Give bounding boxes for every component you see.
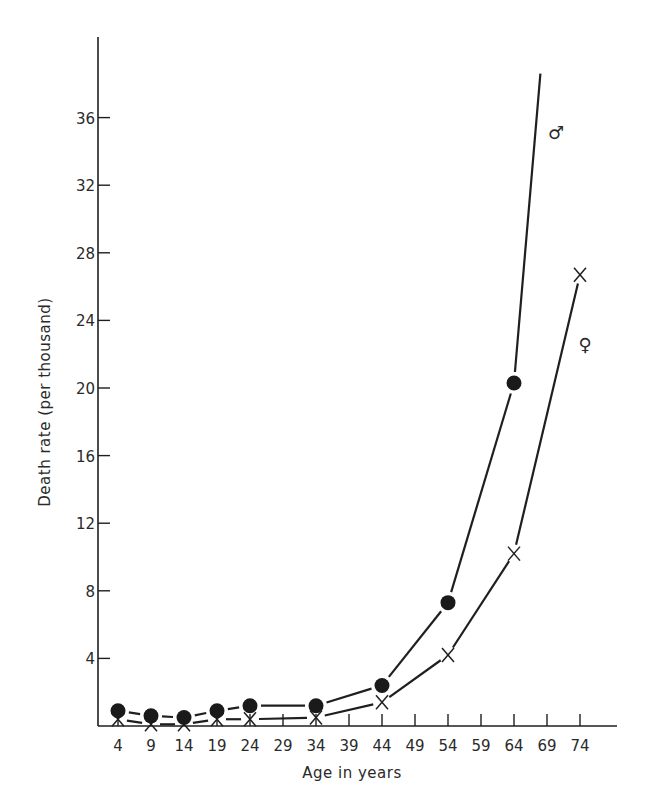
x-tick-label: 49: [405, 737, 424, 755]
series-segment: [389, 611, 441, 677]
female-marker-x: [574, 268, 586, 282]
x-tick-label: 69: [537, 737, 556, 755]
y-tick-label: 12: [76, 515, 95, 533]
series-segment: [259, 718, 307, 719]
y-tick-label: 32: [76, 177, 95, 195]
axes: [98, 37, 617, 726]
female-symbol-label: ♀: [578, 334, 591, 355]
series-segment: [515, 74, 540, 372]
series-segment: [453, 561, 509, 647]
x-tick-label: 4: [113, 737, 123, 755]
female-marker-x: [508, 547, 520, 561]
series-segment: [193, 721, 208, 723]
x-tick-label: 19: [207, 737, 226, 755]
male-symbol-label: ♂: [548, 122, 564, 143]
male-marker-dot: [177, 710, 192, 725]
series-segment: [162, 716, 173, 717]
series-segment: [127, 721, 142, 723]
series-layer: [111, 74, 587, 732]
y-tick-label: 36: [76, 110, 95, 128]
series-segment: [129, 712, 140, 714]
x-tick-label: 39: [339, 737, 358, 755]
female-marker-x: [376, 695, 388, 709]
male-marker-dot: [111, 703, 126, 718]
series-segment: [228, 707, 239, 709]
y-axis-title: Death rate (per thousand): [36, 297, 54, 506]
series-segment: [195, 713, 206, 715]
male-marker-dot: [441, 595, 456, 610]
y-tick-label: 20: [76, 380, 95, 398]
x-tick-label: 64: [504, 737, 523, 755]
x-tick-label: 74: [570, 737, 589, 755]
x-tick-label: 44: [372, 737, 391, 755]
y-tick-label: 28: [76, 245, 95, 263]
series-segment: [325, 704, 373, 715]
x-tick-label: 54: [438, 737, 457, 755]
male-marker-dot: [210, 703, 225, 718]
x-tick-label: 24: [240, 737, 259, 755]
y-tick-label: 8: [85, 583, 95, 601]
series-segment: [327, 689, 372, 703]
x-tick-label: 34: [306, 737, 325, 755]
male-marker-dot: [309, 698, 324, 713]
female-marker-x: [442, 648, 454, 662]
male-marker-dot: [243, 698, 258, 713]
male-marker-dot: [375, 678, 390, 693]
y-axis-ticks: 4812162024283236: [76, 110, 110, 669]
y-tick-label: 4: [85, 650, 95, 668]
series-segment: [516, 284, 578, 545]
y-tick-label: 24: [76, 312, 95, 330]
x-tick-label: 14: [174, 737, 193, 755]
series-male: [111, 74, 541, 725]
death-rate-chart: 4812162024283236 49141924293439444954596…: [0, 0, 650, 809]
series-segment: [451, 393, 511, 592]
x-axis-title: Age in years: [302, 764, 402, 782]
x-tick-label: 29: [273, 737, 292, 755]
male-marker-dot: [144, 708, 159, 723]
male-marker-dot: [507, 375, 522, 390]
y-tick-label: 16: [76, 448, 95, 466]
x-tick-label: 59: [471, 737, 490, 755]
series-female: [112, 268, 586, 732]
x-tick-label: 9: [146, 737, 156, 755]
